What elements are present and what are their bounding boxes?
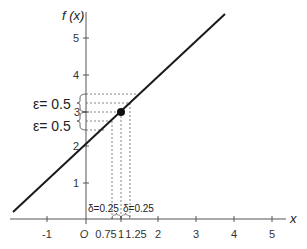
x-tick-label: -1 xyxy=(42,228,52,240)
delta-left-label: δ=0.25 xyxy=(88,203,119,214)
x-tick-label: 5 xyxy=(269,228,275,240)
vertical-guides xyxy=(112,103,130,219)
y-tick-label: 1 xyxy=(73,177,79,189)
x-tick-label: 1.25 xyxy=(125,228,146,240)
epsilon-upper-label: ε= 0.5 xyxy=(33,96,71,112)
y-tick-label: 4 xyxy=(73,69,79,81)
highlight-point xyxy=(117,108,125,116)
epsilon-delta-chart: -1 O 0.75 1 1.25 2 3 4 5 1 2 3 4 5 f (x)… xyxy=(0,0,307,249)
x-tick-label: 0.75 xyxy=(95,228,116,240)
x-axis-title: x xyxy=(289,211,297,226)
x-tick-label: 1 xyxy=(118,228,124,240)
y-tick-label: 3 xyxy=(74,106,80,118)
delta-right-label: δ=0.25 xyxy=(123,203,154,214)
x-tick-label: 4 xyxy=(231,228,237,240)
x-tick-label: 2 xyxy=(155,228,161,240)
origin-label: O xyxy=(80,228,89,240)
y-tick-label: 5 xyxy=(73,32,79,44)
y-axis-title: f (x) xyxy=(62,8,84,23)
horizontal-guides xyxy=(86,94,137,130)
epsilon-lower-label: ε= 0.5 xyxy=(33,118,71,134)
x-tick-label: 3 xyxy=(193,228,199,240)
